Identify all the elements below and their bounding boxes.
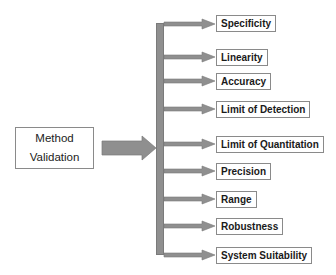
target-box-range: Range	[216, 191, 257, 208]
arrow-icon-robustness	[164, 221, 215, 231]
arrow-icon-range	[164, 194, 215, 204]
target-box-limit-of-quantitation: Limit of Quantitation	[216, 136, 324, 153]
target-box-limit-of-detection: Limit of Detection	[216, 101, 310, 118]
target-box-robustness: Robustness	[216, 218, 283, 235]
vertical-distribution-bar	[156, 23, 164, 255]
arrow-icon-system-suitability	[164, 250, 215, 260]
target-box-system-suitability: System Suitability	[216, 247, 312, 264]
target-box-precision: Precision	[216, 163, 271, 180]
arrow-icon-accuracy	[164, 76, 215, 86]
arrow-icon-limit-of-quantitation	[164, 139, 215, 149]
target-box-accuracy: Accuracy	[216, 73, 271, 90]
arrow-icon-linearity	[164, 52, 215, 62]
target-box-linearity: Linearity	[216, 49, 268, 66]
arrow-icon-specificity	[164, 19, 215, 29]
target-box-specificity: Specificity	[216, 15, 276, 32]
main-arrow-icon	[102, 136, 156, 160]
arrow-icon-precision	[164, 166, 215, 176]
arrow-icon-limit-of-detection	[164, 104, 215, 114]
branch-arrows	[164, 19, 215, 260]
